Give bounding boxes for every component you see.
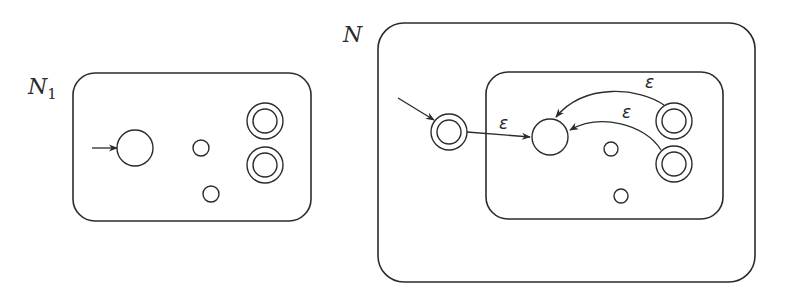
state — [614, 189, 628, 203]
accept-state — [247, 147, 283, 183]
epsilon-edge-accept1: ε — [556, 72, 664, 117]
label-main: N — [27, 74, 48, 99]
label-main: N — [342, 22, 363, 47]
state-circle — [532, 119, 568, 155]
edge-arrow — [556, 91, 664, 117]
accept-inner-circle — [253, 153, 277, 177]
label-subscript: 1 — [47, 85, 57, 103]
epsilon-label: ε — [622, 102, 631, 122]
state-circle — [604, 142, 618, 156]
epsilon-label: ε — [499, 113, 508, 133]
state-circle — [117, 130, 153, 166]
accept-state — [656, 146, 692, 182]
state-circle — [193, 140, 209, 156]
n-states — [431, 103, 692, 203]
old-start-state — [532, 119, 568, 155]
panel-n-label: N — [342, 22, 363, 47]
state — [193, 140, 209, 156]
accept-inner-circle — [662, 152, 686, 176]
accept-state — [656, 103, 692, 139]
nfa-star-construction-diagram: N1 N εεε — [0, 0, 793, 300]
state — [604, 142, 618, 156]
accept-inner-circle — [662, 109, 686, 133]
state-circle — [203, 186, 219, 202]
epsilon-label: ε — [645, 72, 654, 92]
n1-states — [117, 103, 283, 202]
state-circle — [614, 189, 628, 203]
panel-n1: N1 — [27, 73, 311, 221]
start-arrow — [398, 98, 434, 120]
accept-state — [247, 103, 283, 139]
new-start-accept-state — [431, 114, 467, 150]
accept-inner-circle — [253, 109, 277, 133]
epsilon-edge-start: ε — [467, 113, 530, 137]
n-outer-machine-box — [378, 23, 755, 282]
state — [203, 186, 219, 202]
accept-inner-circle — [437, 120, 461, 144]
panel-n: N εεε — [342, 22, 755, 282]
start-state — [117, 130, 153, 166]
n1-machine-box — [73, 73, 311, 221]
panel-n1-label: N1 — [27, 74, 57, 103]
